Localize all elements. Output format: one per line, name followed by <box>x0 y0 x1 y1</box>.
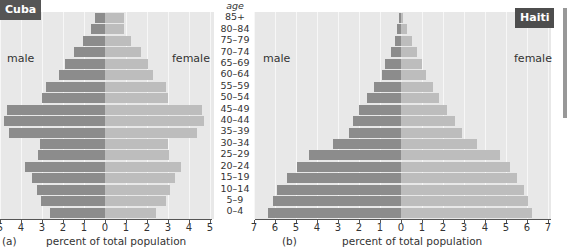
haiti-tick-label: 6 <box>519 222 535 233</box>
haiti-tick-label: 1 <box>372 222 388 233</box>
cuba-male-bar-50-54 <box>42 93 105 103</box>
cuba-badge: Cuba <box>0 0 41 20</box>
cuba-female-bar-40-44 <box>105 116 204 126</box>
haiti-female-bar-35-39 <box>401 128 462 138</box>
cuba-female-bar-10-14 <box>105 185 170 195</box>
haiti-male-bar-40-44 <box>353 116 401 126</box>
cuba-male-bar-10-14 <box>37 185 105 195</box>
cuba-female-bar-50-54 <box>105 93 168 103</box>
cuba-male-bar-35-39 <box>9 128 105 138</box>
haiti-female-bar-5-9 <box>401 196 528 206</box>
haiti-male-bar-30-34 <box>333 139 401 149</box>
gridline <box>527 12 528 219</box>
cuba-tick-label: 3 <box>34 222 50 233</box>
cuba-tick-label: 1 <box>76 222 92 233</box>
haiti-tick-label: 5 <box>498 222 514 233</box>
age-label: 70–74 <box>218 46 252 57</box>
gridline <box>210 12 211 219</box>
gridline <box>548 12 549 219</box>
age-label: 5–9 <box>218 194 252 205</box>
caption-a: (a) <box>2 235 17 247</box>
cuba-female-label: female <box>172 52 210 65</box>
cuba-female-bar-0-4 <box>105 208 156 218</box>
haiti-tick-label: 2 <box>351 222 367 233</box>
cuba-female-bar-65-69 <box>105 59 148 69</box>
cuba-male-bar-85+ <box>95 13 106 23</box>
age-labels: age 85+80–8475–7970–7465–6960–6455–5950–… <box>218 0 252 217</box>
haiti-tick-label: 7 <box>540 222 556 233</box>
haiti-male-bar-15-19 <box>287 173 401 183</box>
cuba-tick-label: 4 <box>13 222 29 233</box>
gridline <box>275 12 276 219</box>
cuba-female-bar-60-64 <box>105 70 153 80</box>
haiti-female-bar-30-34 <box>401 139 477 149</box>
haiti-female-bar-20-24 <box>401 162 510 172</box>
cuba-female-bar-20-24 <box>105 162 181 172</box>
haiti-female-bar-40-44 <box>401 116 455 126</box>
haiti-male-bar-25-29 <box>309 150 401 160</box>
cuba-tick-label: 5 <box>0 222 8 233</box>
haiti-tick-label: 4 <box>309 222 325 233</box>
cuba-tick-label: 0 <box>97 222 113 233</box>
age-label: 15–19 <box>218 171 252 182</box>
cuba-male-bar-20-24 <box>25 162 105 172</box>
cuba-male-bar-45-49 <box>7 105 105 115</box>
age-label: 60–64 <box>218 68 252 79</box>
haiti-female-bar-15-19 <box>401 173 517 183</box>
age-label: 20–24 <box>218 160 252 171</box>
gridline <box>254 12 255 219</box>
haiti-female-bar-55-59 <box>401 82 433 92</box>
cuba-male-bar-30-34 <box>40 139 105 149</box>
age-label: 50–54 <box>218 91 252 102</box>
age-label: 55–59 <box>218 80 252 91</box>
haiti-pyramid-plot <box>255 12 551 219</box>
cuba-tick-label: 4 <box>181 222 197 233</box>
haiti-x-axis-label: percent of total population <box>342 235 482 247</box>
cuba-male-bar-55-59 <box>46 82 105 92</box>
age-label: 65–69 <box>218 57 252 68</box>
cuba-male-bar-5-9 <box>41 196 105 206</box>
age-label: 40–44 <box>218 114 252 125</box>
haiti-female-bar-65-69 <box>401 59 422 69</box>
age-header: age <box>218 0 252 11</box>
haiti-male-bar-35-39 <box>349 128 402 138</box>
cuba-female-bar-30-34 <box>105 139 168 149</box>
haiti-male-bar-45-49 <box>359 105 401 115</box>
haiti-tick-label: 2 <box>435 222 451 233</box>
haiti-male-bar-50-54 <box>367 93 401 103</box>
haiti-female-bar-60-64 <box>401 70 426 80</box>
cuba-female-bar-15-19 <box>105 173 175 183</box>
age-label: 85+ <box>218 11 252 22</box>
cuba-tick-label: 2 <box>139 222 155 233</box>
cuba-female-bar-45-49 <box>105 105 202 115</box>
cuba-female-bar-25-29 <box>105 150 169 160</box>
cuba-male-bar-25-29 <box>38 150 105 160</box>
haiti-female-bar-80-84 <box>401 24 407 34</box>
age-label: 75–79 <box>218 34 252 45</box>
haiti-male-bar-20-24 <box>297 162 401 172</box>
haiti-female-label: female <box>514 52 552 65</box>
haiti-male-bar-55-59 <box>374 82 401 92</box>
cuba-male-bar-60-64 <box>59 70 105 80</box>
haiti-male-label: male <box>263 52 290 65</box>
haiti-female-bar-45-49 <box>401 105 447 115</box>
cuba-female-bar-80-84 <box>105 24 124 34</box>
haiti-male-bar-10-14 <box>277 185 401 195</box>
haiti-tick-label: 4 <box>477 222 493 233</box>
haiti-female-bar-50-54 <box>401 93 439 103</box>
haiti-tick-label: 0 <box>393 222 409 233</box>
haiti-tick-label: 5 <box>288 222 304 233</box>
cuba-tick-label: 5 <box>202 222 218 233</box>
age-label: 30–34 <box>218 137 252 148</box>
cuba-x-axis <box>0 219 212 220</box>
haiti-male-bar-65-69 <box>385 59 401 69</box>
haiti-female-bar-85+ <box>401 13 403 23</box>
cuba-male-label: male <box>7 52 34 65</box>
cuba-female-bar-75-79 <box>105 36 131 46</box>
haiti-female-bar-70-74 <box>401 47 417 57</box>
age-label: 0–4 <box>218 205 252 216</box>
age-label: 45–49 <box>218 103 252 114</box>
haiti-female-bar-75-79 <box>401 36 412 46</box>
haiti-female-bar-25-29 <box>401 150 500 160</box>
haiti-tick-label: 6 <box>267 222 283 233</box>
